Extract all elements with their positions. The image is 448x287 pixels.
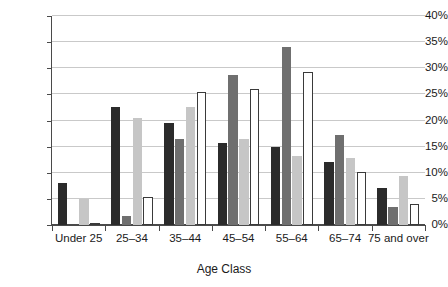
x-tick-mark-3 [212, 226, 213, 231]
bar [122, 216, 131, 225]
bar-group [52, 16, 105, 225]
bar [79, 199, 88, 225]
bar-group [372, 16, 425, 225]
bar [292, 156, 301, 225]
x-tick-mark-5 [318, 226, 319, 231]
bar-group [318, 16, 371, 225]
bar [228, 75, 237, 225]
bar [399, 176, 408, 225]
bar [303, 72, 312, 225]
bar [186, 107, 195, 225]
bar [111, 107, 120, 225]
x-tick-mark-2 [159, 226, 160, 231]
bar-group [105, 16, 158, 225]
bar [410, 204, 419, 225]
bar [357, 172, 366, 225]
bar [239, 139, 248, 225]
x-axis-label: 75 and over [364, 232, 433, 245]
x-tick-mark-0 [52, 226, 53, 231]
bar [271, 147, 280, 225]
bar [346, 158, 355, 225]
bar [218, 143, 227, 225]
x-tick-mark-7 [425, 226, 426, 231]
x-axis-title: Age Class [0, 262, 448, 276]
bar-group [265, 16, 318, 225]
bar [377, 188, 386, 225]
bar [388, 207, 397, 225]
bar [335, 135, 344, 225]
plot-area [52, 16, 425, 225]
bar-group [159, 16, 212, 225]
bar [282, 47, 291, 225]
bar-group [212, 16, 265, 225]
bar [143, 197, 152, 225]
x-axis-line [52, 225, 426, 226]
bar [324, 162, 333, 225]
bar [250, 89, 259, 225]
bar [133, 118, 142, 225]
bar [58, 183, 67, 225]
bar [175, 139, 184, 225]
bar-chart: 0%5%10%15%20%25%30%35%40% Under 2525–343… [0, 0, 448, 287]
x-tick-mark-4 [265, 226, 266, 231]
bar [197, 92, 206, 225]
x-tick-mark-6 [372, 226, 373, 231]
x-tick-mark-1 [105, 226, 106, 231]
bar [164, 123, 173, 225]
